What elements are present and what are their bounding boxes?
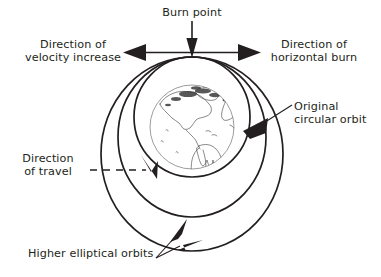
label-direction-of-horizontal-burn: Direction of horizontal burn: [248, 38, 380, 64]
label-burn-point: Burn point: [130, 6, 254, 19]
label-direction-of-travel: Direction of travel: [6, 152, 90, 178]
label-direction-of-velocity-increase: Direction of velocity increase: [6, 38, 140, 64]
orbital-burn-diagram: Burn point Direction of velocity increas…: [0, 0, 381, 277]
globe-outline: [150, 85, 234, 169]
earth-globe: [150, 85, 238, 186]
label-higher-elliptical-orbits: Higher elliptical orbits: [28, 247, 164, 260]
label-original-circular-orbit: Original circular orbit: [294, 100, 380, 126]
